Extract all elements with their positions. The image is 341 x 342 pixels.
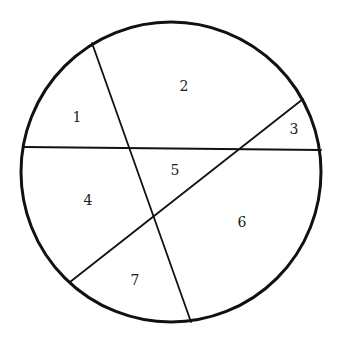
region-label-3: 3 [290,121,299,137]
region-label-5: 5 [171,162,180,178]
region-labels-group: 1234567 [73,78,299,288]
diagonal-chord [70,99,303,282]
region-label-1: 1 [73,109,82,125]
region-label-7: 7 [131,272,140,288]
region-label-2: 2 [180,78,189,94]
circle-partition-diagram: 1234567 [0,0,341,342]
region-label-6: 6 [238,214,247,230]
region-label-4: 4 [84,192,93,208]
horizontal-chord [24,147,321,150]
steep-chord [92,43,191,322]
